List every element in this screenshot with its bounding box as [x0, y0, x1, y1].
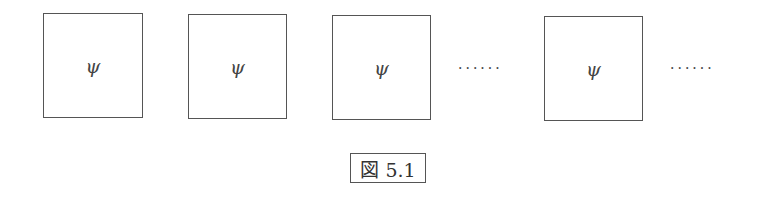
psi-label: ψ	[586, 58, 601, 80]
psi-label: ψ	[230, 56, 245, 78]
figure-caption: 図 5.1	[350, 153, 426, 183]
ellipsis-1: ······	[458, 60, 503, 76]
psi-box-2: ψ	[188, 14, 287, 119]
psi-box-3: ψ	[332, 15, 431, 120]
psi-box-4: ψ	[544, 16, 643, 121]
psi-box-1: ψ	[43, 13, 143, 118]
ellipsis-2: ······	[670, 60, 715, 76]
psi-label: ψ	[86, 55, 101, 77]
psi-label: ψ	[374, 57, 389, 79]
